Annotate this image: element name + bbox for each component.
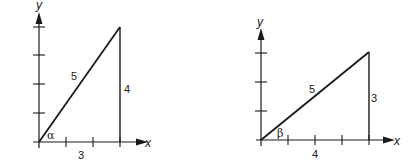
y-axis-arrow-icon [36, 12, 43, 24]
x-axis-label: x [393, 134, 401, 148]
horizontal-side-label: 4 [312, 148, 318, 160]
vertical-side-label: 4 [124, 83, 130, 95]
y-axis-label: y [256, 15, 264, 29]
vertical-side-label: 3 [371, 92, 377, 104]
left-triangle-diagram: y x 5 4 3 α [33, 0, 152, 160]
x-axis-label: x [144, 136, 152, 150]
horizontal-side-label: 3 [78, 149, 84, 160]
y-axis-arrow-icon [258, 28, 265, 40]
figure: y x 5 4 3 α y x 5 3 4 [0, 0, 410, 160]
hypotenuse-label: 5 [309, 83, 315, 95]
angle-beta-label: β [277, 127, 283, 140]
right-triangle-diagram: y x 5 3 4 β [255, 15, 401, 160]
angle-alpha-label: α [47, 129, 55, 142]
hypotenuse-label: 5 [71, 70, 77, 82]
y-axis-label: y [35, 0, 43, 12]
hypotenuse [39, 27, 120, 142]
